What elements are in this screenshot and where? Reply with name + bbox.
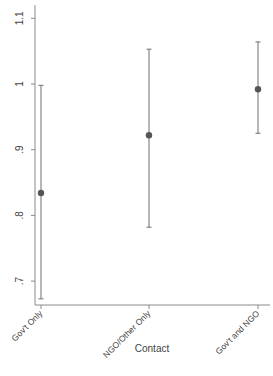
ci-marker (146, 49, 152, 227)
ci-plot: .7.8.911.1 Gov't OnlyNGO/Other OnlyGov't… (0, 0, 273, 376)
x-axis-title: Contact (135, 343, 170, 354)
x-tick-label: Gov't Only (9, 308, 44, 343)
y-tick-label: .7 (14, 276, 25, 285)
data-series (38, 42, 261, 299)
y-axis: .7.8.911.1 (14, 5, 35, 305)
ci-marker (255, 42, 261, 133)
chart-container: .7.8.911.1 Gov't OnlyNGO/Other OnlyGov't… (0, 0, 273, 376)
y-tick-label: 1 (14, 81, 25, 87)
y-tick-label: .8 (14, 211, 25, 220)
y-tick-label: 1.1 (14, 11, 25, 25)
point-estimate (146, 132, 152, 138)
point-estimate (38, 190, 44, 196)
x-tick-label: Gov't and NGO (213, 308, 261, 356)
point-estimate (255, 86, 261, 92)
ci-marker (38, 85, 44, 299)
y-tick-label: .9 (14, 145, 25, 154)
